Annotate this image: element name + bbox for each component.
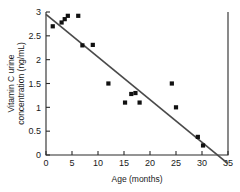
axis-frame bbox=[46, 12, 228, 155]
y-tick-label: 1.5 bbox=[28, 79, 41, 89]
scatter-plot: 05101520253035 00.511.522.53 Age (months… bbox=[0, 0, 240, 192]
y-tick-label: 2.5 bbox=[28, 31, 41, 41]
data-point bbox=[80, 43, 84, 47]
x-tick-label: 10 bbox=[93, 158, 103, 168]
y-axis-tick-labels: 00.511.522.53 bbox=[28, 7, 41, 160]
y-tick-label: 2 bbox=[36, 55, 41, 65]
data-point bbox=[123, 100, 127, 104]
y-tick-label: 3 bbox=[36, 7, 41, 17]
x-tick-label: 25 bbox=[171, 158, 181, 168]
y-axis-ticks bbox=[46, 12, 50, 155]
data-point bbox=[76, 14, 80, 18]
regression-line bbox=[46, 14, 228, 163]
data-point bbox=[170, 81, 174, 85]
x-axis-title: Age (months) bbox=[111, 174, 162, 184]
x-tick-label: 20 bbox=[145, 158, 155, 168]
x-tick-label: 15 bbox=[119, 158, 129, 168]
plot-frame bbox=[46, 12, 228, 155]
x-axis-ticks bbox=[46, 151, 228, 155]
data-point bbox=[174, 105, 178, 109]
x-axis-tick-labels: 05101520253035 bbox=[43, 158, 233, 168]
data-point bbox=[129, 92, 133, 96]
x-tick-label: 0 bbox=[43, 158, 48, 168]
y-axis-title-line1: Vitamin C urine bbox=[6, 54, 16, 112]
data-point bbox=[133, 91, 137, 95]
vitamin-c-scatter-figure: 05101520253035 00.511.522.53 Age (months… bbox=[0, 0, 240, 192]
y-tick-label: 0.5 bbox=[28, 126, 41, 136]
data-point bbox=[51, 24, 55, 28]
data-point bbox=[201, 143, 205, 147]
data-point bbox=[196, 135, 200, 139]
y-tick-label: 1 bbox=[36, 103, 41, 113]
data-point bbox=[138, 100, 142, 104]
y-axis-title-line2: concentration (ng/mL) bbox=[16, 42, 26, 125]
data-point bbox=[66, 14, 70, 18]
x-tick-label: 30 bbox=[197, 158, 207, 168]
x-tick-label: 5 bbox=[69, 158, 74, 168]
data-point bbox=[91, 43, 95, 47]
regression-line-group bbox=[46, 14, 228, 163]
y-tick-label: 0 bbox=[36, 150, 41, 160]
data-point bbox=[106, 81, 110, 85]
